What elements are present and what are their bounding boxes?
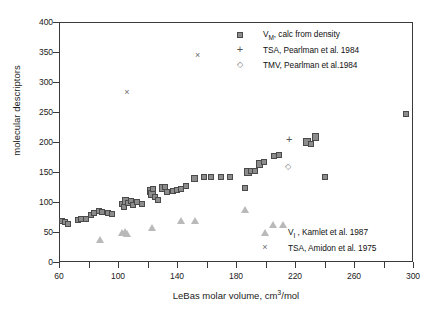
data-point bbox=[322, 174, 328, 180]
data-point bbox=[308, 141, 314, 147]
x-tick-mark bbox=[266, 262, 267, 268]
x-tick-label: 260 bbox=[334, 271, 374, 281]
data-point: × bbox=[122, 88, 131, 97]
data-point bbox=[148, 190, 156, 198]
data-point bbox=[164, 189, 170, 195]
y-axis-title: molecular descriptors bbox=[11, 26, 22, 196]
x-tick-mark bbox=[413, 262, 414, 268]
data-point bbox=[303, 138, 311, 146]
legend-label: VI , Kamlet et al. 1987 bbox=[288, 227, 368, 239]
x-tick-mark bbox=[148, 262, 149, 268]
data-point bbox=[88, 212, 94, 218]
data-point bbox=[65, 221, 71, 227]
data-point bbox=[62, 219, 68, 225]
data-point bbox=[178, 186, 184, 192]
data-point bbox=[170, 188, 176, 194]
legend-label: TSA, Pearlman et al. 1984 bbox=[263, 45, 359, 55]
data-point bbox=[125, 200, 131, 206]
data-point bbox=[99, 209, 105, 215]
data-point bbox=[191, 217, 199, 224]
data-point bbox=[276, 152, 282, 158]
x-tick-mark bbox=[236, 262, 237, 268]
data-point bbox=[96, 236, 104, 243]
x-tick-label: 140 bbox=[157, 271, 197, 281]
data-point bbox=[312, 133, 320, 141]
x-tick-label: 100 bbox=[98, 271, 138, 281]
data-point bbox=[159, 184, 167, 192]
y-tick-label: 50 bbox=[7, 227, 53, 237]
x-tick-mark bbox=[384, 262, 385, 268]
legend-bottom: VI , Kamlet et al. 1987×TSA, Amidon et a… bbox=[262, 225, 376, 255]
legend-top: VM, calc from density+TSA, Pearlman et a… bbox=[237, 27, 359, 72]
data-point bbox=[105, 210, 111, 216]
x-axis-title-main: LeBas molar volume, cm bbox=[173, 290, 278, 301]
data-point bbox=[227, 174, 233, 180]
x-tick-mark bbox=[59, 262, 60, 268]
legend-row: ◇TMV, Pearlman et al.1984 bbox=[237, 57, 359, 72]
data-point: + bbox=[285, 135, 294, 144]
data-point bbox=[261, 159, 267, 165]
plus-icon: + bbox=[237, 42, 263, 57]
data-point bbox=[128, 198, 134, 204]
x-tick-mark bbox=[89, 262, 90, 268]
data-point bbox=[123, 230, 131, 237]
data-point bbox=[201, 174, 207, 180]
x-axis-title-tail: /mol bbox=[281, 290, 299, 301]
data-point bbox=[121, 228, 129, 235]
data-point bbox=[150, 186, 156, 192]
legend-row: VI , Kamlet et al. 1987 bbox=[262, 225, 376, 240]
cross-icon: × bbox=[262, 240, 288, 255]
data-point bbox=[174, 187, 180, 193]
data-point bbox=[59, 218, 65, 224]
data-point bbox=[256, 160, 264, 168]
data-point bbox=[121, 204, 127, 210]
diamond-icon: ◇ bbox=[237, 57, 263, 72]
data-point bbox=[91, 210, 97, 216]
x-tick-mark bbox=[325, 262, 326, 268]
data-point bbox=[118, 229, 126, 236]
x-tick-label: 220 bbox=[275, 271, 315, 281]
y-tick-label: 100 bbox=[7, 197, 53, 207]
data-point bbox=[139, 201, 145, 207]
data-point bbox=[403, 111, 409, 117]
x-axis-title: LeBas molar volume, cm3/mol bbox=[59, 289, 413, 301]
legend-row: VM, calc from density bbox=[237, 27, 359, 42]
x-tick-mark bbox=[207, 262, 208, 268]
data-point: ◇ bbox=[283, 162, 292, 171]
x-tick-mark bbox=[118, 262, 119, 268]
data-point bbox=[155, 197, 161, 203]
x-tick-mark bbox=[295, 262, 296, 268]
data-point bbox=[241, 206, 249, 213]
data-point bbox=[75, 217, 81, 223]
triangle-icon bbox=[262, 225, 288, 240]
data-point bbox=[130, 202, 136, 208]
scatter-chart-figure: 050100150200250300350400 601001401802202… bbox=[0, 0, 436, 312]
data-point bbox=[242, 185, 248, 191]
legend-label: TMV, Pearlman et al.1984 bbox=[263, 60, 357, 70]
data-point bbox=[134, 199, 140, 205]
data-point bbox=[109, 211, 115, 217]
data-point bbox=[218, 174, 224, 180]
x-tick-mark bbox=[354, 262, 355, 268]
data-point bbox=[271, 153, 277, 159]
data-point: × bbox=[193, 51, 202, 60]
legend-row: +TSA, Pearlman et al. 1984 bbox=[237, 42, 359, 57]
x-tick-label: 60 bbox=[39, 271, 79, 281]
data-point bbox=[252, 168, 258, 174]
x-tick-label: 180 bbox=[216, 271, 256, 281]
data-point bbox=[122, 197, 130, 205]
data-point bbox=[152, 194, 158, 200]
data-point bbox=[208, 174, 214, 180]
data-point bbox=[119, 201, 125, 207]
legend-row: ×TSA, Amidon et al. 1975 bbox=[262, 240, 376, 255]
legend-label: TSA, Amidon et al. 1975 bbox=[288, 243, 376, 253]
data-point bbox=[191, 175, 199, 183]
y-tick-label: 0 bbox=[7, 257, 53, 267]
data-point bbox=[148, 224, 156, 231]
x-tick-label: 300 bbox=[393, 271, 433, 281]
x-tick-mark bbox=[177, 262, 178, 268]
data-point bbox=[177, 217, 185, 224]
data-point bbox=[183, 183, 189, 189]
data-point bbox=[162, 184, 168, 190]
data-point bbox=[244, 168, 252, 176]
